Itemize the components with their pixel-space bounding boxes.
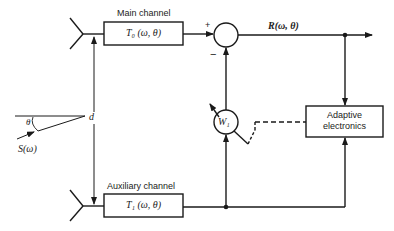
minus-sign: − <box>210 48 216 60</box>
adaptive-line2: electronics <box>306 121 383 132</box>
source-label: S(ω) <box>18 143 37 154</box>
adaptive-electronics-label: Adaptive electronics <box>306 110 383 132</box>
output-label: R(ω, θ) <box>268 20 299 31</box>
main-channel-transfer: T₀ (ω, θ) <box>104 27 183 38</box>
aux-antenna-icon <box>70 190 104 221</box>
aux-channel-transfer: T₁ (ω, θ) <box>104 199 183 210</box>
weight-label: W₁ <box>218 116 230 127</box>
main-antenna-icon <box>70 18 104 49</box>
aux-channel-title: Auxiliary channel <box>107 181 175 191</box>
angle-label: θ <box>26 117 30 127</box>
spacing-label: d <box>89 111 94 122</box>
summing-junction <box>214 23 238 47</box>
main-channel-title: Main channel <box>117 8 171 18</box>
adaptive-line1: Adaptive <box>306 110 383 121</box>
plus-sign: + <box>205 20 210 30</box>
